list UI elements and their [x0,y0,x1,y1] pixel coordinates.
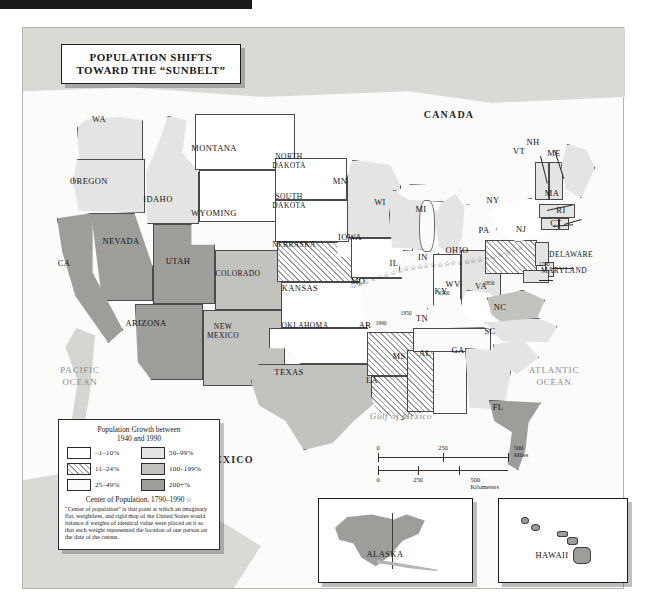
map-page: WAOREGONIDAHOMONTANAWYOMINGNEVADAUTAHCAC… [0,0,647,609]
cop-star-6: ☆ [477,257,483,264]
scale-km-tick-0 [378,466,379,475]
alaska-divider-line [392,513,393,569]
legend-swatch-label-4: 25–49% [95,481,137,489]
state-shape-al [433,350,467,414]
cop-star-7: ☆ [470,258,476,265]
lake-michigan [419,200,435,252]
title-line-1: POPULATION SHIFTS [90,51,213,65]
pacific-line-2: OCEAN [62,377,97,387]
cop-star-21: ☆ [377,274,383,281]
cop-star-13: ☆ [430,262,436,269]
hawaii-label: HAWAII [536,550,569,560]
cop-star-17: ☆ [403,266,409,273]
state-shape-wa [77,116,143,160]
canada-label: CANADA [424,109,475,120]
state-shape-wy [199,170,277,222]
legend-swatch-3 [141,463,165,475]
state-shape-or [73,159,145,213]
pacific-line-1: PACIFIC [60,365,99,375]
hawaii-island-big-island [573,547,591,564]
cop-star-22: ☆ [370,276,376,283]
atlantic-ocean-label: ATLANTIC OCEAN [529,364,579,388]
state-shape-sd [275,200,349,242]
cop-star-24: ☆ [357,281,363,288]
cop-star-3: ☆ [497,251,503,258]
cop-year-1790: 1790 [538,261,549,267]
scale-miles-tick-1 [443,453,444,462]
cop-year-1850: 1850 [483,280,494,286]
delaware-leader-line [552,268,574,269]
cop-star-20: ☆ [383,272,389,279]
cop-star-2: ☆ [504,249,510,256]
cop-star-23: ☆ [363,278,369,285]
scale-km-bar: 0 250 500 Kilometers [378,466,523,475]
map-legend: Population Growth between 1940 and 1990 … [58,419,220,550]
state-shape-ct [541,218,559,230]
cop-star-12: ☆ [437,261,443,268]
scale-miles-label-1: 250 [438,444,448,451]
scale-miles-label-0: 0 [376,444,379,451]
cop-star-14: ☆ [423,263,429,270]
alaska-panhandle [377,557,439,571]
cop-year-1990: 1990 [375,320,386,326]
top-rule-decoration [0,0,252,9]
hawaii-island-oahu [531,524,540,531]
scale-km-label-2: 500 Kilometers [471,476,506,490]
state-shape-nd [275,158,347,200]
scale-miles-label-2: 500 Miles [514,444,529,458]
legend-swatch-label-0: –1–10% [95,449,137,457]
title-line-2: TOWARD THE “SUNBELT” [76,64,225,78]
scale-km-label-0: 0 [376,476,379,483]
cop-star-10: ☆ [450,260,456,267]
cop-star-25: ☆ [350,283,356,290]
scale-bar: 0 250 500 Miles 0 250 500 Kilometers [378,453,523,475]
state-shape-ma [539,204,575,218]
cop-star-4: ☆ [490,253,496,260]
scale-miles-bar: 0 250 500 Miles [378,453,523,462]
gulf-of-mexico-label: Gulf of Mexico [370,411,432,421]
scale-miles-tick-2 [508,453,509,462]
cop-star-5: ☆ [484,255,490,262]
scale-km-tick-2 [459,466,460,475]
legend-swatch-2 [67,463,91,475]
hawaii-island-maui [567,537,578,545]
state-shape-tn [413,328,491,352]
atlantic-line-1: ATLANTIC [529,365,579,375]
cop-star-16: ☆ [410,265,416,272]
cop-year-1950: 1950 [400,310,411,316]
atlantic-line-2: OCEAN [537,377,572,387]
legend-swatch-0 [67,447,91,459]
pacific-ocean-label: PACIFIC OCEAN [60,364,99,388]
hawaii-island-kauai [521,517,529,524]
cop-star-1: ☆ [510,247,516,254]
legend-swatch-label-1: 50–99% [169,449,211,457]
legend-swatch-label-3: 100–199% [169,465,211,473]
cop-star-0: ☆ [517,245,523,252]
scale-miles-tick-0 [378,453,379,462]
scale-km-line [378,470,508,471]
alaska-inset: ALASKA [318,498,473,583]
legend-swatch-label-2: 11–24% [95,465,137,473]
legend-swatch-grid: –1–10%50–99%11–24%100–199%25–49%200+% [67,447,211,491]
legend-swatch-1 [141,447,165,459]
hawaii-island-molokai [557,531,568,537]
legend-swatch-label-5: 200+% [169,481,211,489]
cop-star-11: ☆ [444,261,450,268]
cop-star-8: ☆ [464,259,470,266]
legend-heading-line-1: Population Growth between [98,425,181,434]
legend-swatch-5 [141,479,165,491]
legend-center-of-population-title: Center of Population, 1790–1990 ☆ [65,495,213,504]
scale-km-label-1: 250 [413,476,423,483]
cop-star-15: ☆ [417,264,423,271]
legend-swatch-4 [67,479,91,491]
legend-heading: Population Growth between 1940 and 1990 [65,425,213,443]
legend-note: “Center of population” is that point at … [65,506,213,541]
legend-heading-line-2: 1940 and 1990 [117,434,161,443]
state-shape-md [523,270,549,283]
hawaii-inset: HAWAII [498,498,628,583]
map-plate: WAOREGONIDAHOMONTANAWYOMINGNEVADAUTAHCAC… [22,27,624,589]
state-shape-az [135,304,203,380]
cop-star-18: ☆ [397,268,403,275]
maryland-leader-line [539,280,553,281]
map-title-box: POPULATION SHIFTS TOWARD THE “SUNBELT” [61,44,241,84]
